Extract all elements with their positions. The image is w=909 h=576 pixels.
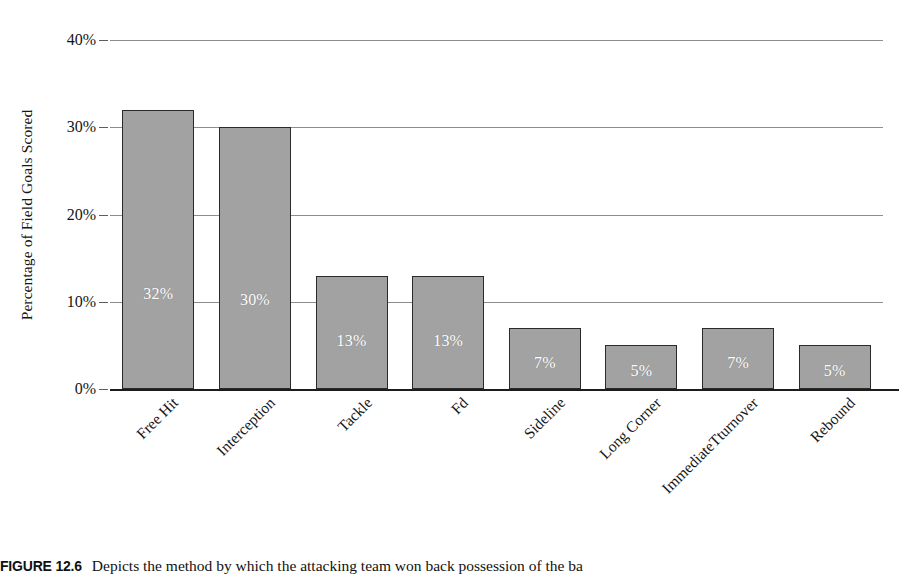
- y-tick-label: 10%: [67, 293, 96, 311]
- y-axis-title: Percentage of Field Goals Scored: [14, 40, 40, 390]
- y-tick-mark: [99, 127, 108, 128]
- x-tick-label: Free Hit: [133, 391, 185, 443]
- x-tick-label-text: Sideline: [520, 391, 571, 442]
- figure-number: FIGURE 12.6: [0, 558, 82, 574]
- bar-series: 32%30%13%13%7%5%7%5%: [110, 40, 883, 389]
- x-tick-label: Interception: [213, 391, 282, 460]
- bar-value-label: 5%: [800, 362, 870, 380]
- x-tick-label-text: ImmediateTturnover: [659, 391, 765, 497]
- x-axis-tick-labels: Free HitInterceptionTackleFdSidelineLong…: [110, 391, 899, 521]
- bar: 32%: [122, 110, 194, 389]
- bar: 5%: [799, 345, 871, 389]
- y-tick-mark: [99, 389, 108, 390]
- bar-value-label: 13%: [413, 332, 483, 350]
- x-tick-label: Tackle: [334, 391, 379, 436]
- bar-value-label: 5%: [606, 362, 676, 380]
- figure-caption-text: Depicts the method by which the attackin…: [92, 557, 583, 574]
- x-tick-label-text: Fd: [448, 391, 475, 418]
- y-tick-label: 30%: [67, 118, 96, 136]
- y-tick-label: 0%: [75, 380, 96, 398]
- x-tick-label: Long Corner: [596, 391, 668, 463]
- bar: 7%: [509, 328, 581, 389]
- y-tick-mark: [99, 302, 108, 303]
- y-tick-mark: [99, 215, 108, 216]
- x-tick-label: Rebound: [806, 391, 861, 446]
- x-tick-label: ImmediateTturnover: [659, 391, 765, 497]
- plot-area: 0%10%20%30%40% 32%30%13%13%7%5%7%5%: [110, 40, 883, 389]
- bar: 5%: [605, 345, 677, 389]
- x-tick-label: Fd: [448, 391, 475, 418]
- bar-value-label: 30%: [220, 291, 290, 309]
- bar: 7%: [702, 328, 774, 389]
- bar: 13%: [316, 276, 388, 389]
- x-tick-label-text: Free Hit: [133, 391, 185, 443]
- bar: 13%: [412, 276, 484, 389]
- x-tick-label-text: Tackle: [334, 391, 379, 436]
- y-axis-title-text: Percentage of Field Goals Scored: [18, 110, 36, 321]
- y-tick-label: 20%: [67, 206, 96, 224]
- bar: 30%: [219, 127, 291, 389]
- y-tick-label: 40%: [67, 31, 96, 49]
- figure-caption: FIGURE 12.6Depicts the method by which t…: [0, 556, 909, 576]
- bar-value-label: 13%: [317, 332, 387, 350]
- y-tick-mark: [99, 40, 108, 41]
- bar-value-label: 7%: [703, 354, 773, 372]
- x-tick-label-text: Long Corner: [596, 391, 668, 463]
- x-tick-label-text: Rebound: [806, 391, 861, 446]
- figure-bar-chart: Percentage of Field Goals Scored 0%10%20…: [0, 0, 909, 576]
- x-tick-label: Sideline: [520, 391, 571, 442]
- bar-value-label: 32%: [123, 285, 193, 303]
- bar-value-label: 7%: [510, 354, 580, 372]
- x-tick-label-text: Interception: [213, 391, 282, 460]
